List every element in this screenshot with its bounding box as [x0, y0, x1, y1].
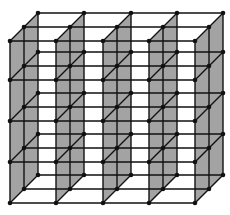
- lattice-node: [36, 132, 41, 137]
- lattice-node: [207, 64, 212, 69]
- lattice-node: [54, 160, 59, 165]
- lattice-node: [129, 173, 134, 178]
- lattice-node: [221, 91, 226, 96]
- lattice-node: [129, 91, 134, 96]
- lattice-node: [22, 64, 27, 69]
- lattice-node: [161, 64, 166, 69]
- lattice-node: [161, 187, 166, 192]
- lattice-node: [207, 146, 212, 151]
- lattice-node: [68, 105, 73, 110]
- lattice-node: [8, 160, 13, 165]
- lattice-node: [161, 146, 166, 151]
- lattice-svg: [0, 0, 230, 215]
- lattice-node: [22, 25, 27, 30]
- lattice-node: [207, 105, 212, 110]
- lattice-node: [193, 160, 198, 165]
- lattice-node: [193, 39, 198, 44]
- lattice-node: [68, 187, 73, 192]
- lattice-node: [101, 119, 106, 124]
- lattice-node: [161, 25, 166, 30]
- lattice-node: [175, 132, 180, 137]
- lattice-node: [129, 11, 134, 16]
- lattice-node: [101, 160, 106, 165]
- lattice-diagram: [0, 0, 230, 215]
- lattice-node: [22, 105, 27, 110]
- lattice-node: [82, 132, 87, 137]
- lattice-node: [193, 78, 198, 83]
- lattice-node: [175, 173, 180, 178]
- lattice-node: [82, 173, 87, 178]
- lattice-node: [207, 25, 212, 30]
- lattice-node: [36, 91, 41, 96]
- lattice-node: [101, 201, 106, 206]
- lattice-node: [129, 132, 134, 137]
- lattice-node: [22, 146, 27, 151]
- lattice-node: [36, 173, 41, 178]
- lattice-node: [175, 11, 180, 16]
- lattice-node: [193, 201, 198, 206]
- lattice-node: [175, 91, 180, 96]
- lattice-node: [54, 201, 59, 206]
- lattice-node: [129, 50, 134, 55]
- lattice-node: [54, 39, 59, 44]
- lattice-node: [115, 64, 120, 69]
- lattice-node: [54, 78, 59, 83]
- lattice-node: [101, 39, 106, 44]
- lattice-node: [115, 25, 120, 30]
- lattice-node: [36, 11, 41, 16]
- lattice-node: [8, 78, 13, 83]
- lattice-node: [221, 11, 226, 16]
- lattice-node: [82, 50, 87, 55]
- lattice-node: [147, 39, 152, 44]
- lattice-node: [82, 91, 87, 96]
- lattice-node: [68, 146, 73, 151]
- lattice-node: [147, 160, 152, 165]
- lattice-node: [82, 11, 87, 16]
- lattice-node: [115, 105, 120, 110]
- lattice-node: [68, 64, 73, 69]
- lattice-node: [147, 201, 152, 206]
- lattice-node: [221, 50, 226, 55]
- lattice-node: [8, 119, 13, 124]
- lattice-node: [147, 78, 152, 83]
- lattice-node: [8, 201, 13, 206]
- lattice-node: [221, 132, 226, 137]
- lattice-node: [115, 146, 120, 151]
- lattice-node: [147, 119, 152, 124]
- lattice-node: [54, 119, 59, 124]
- lattice-node: [115, 187, 120, 192]
- lattice-node: [175, 50, 180, 55]
- lattice-node: [36, 50, 41, 55]
- lattice-node: [68, 25, 73, 30]
- lattice-node: [8, 39, 13, 44]
- lattice-node: [22, 187, 27, 192]
- lattice-node: [161, 105, 166, 110]
- lattice-node: [193, 119, 198, 124]
- lattice-node: [207, 187, 212, 192]
- lattice-node: [221, 173, 226, 178]
- lattice-node: [101, 78, 106, 83]
